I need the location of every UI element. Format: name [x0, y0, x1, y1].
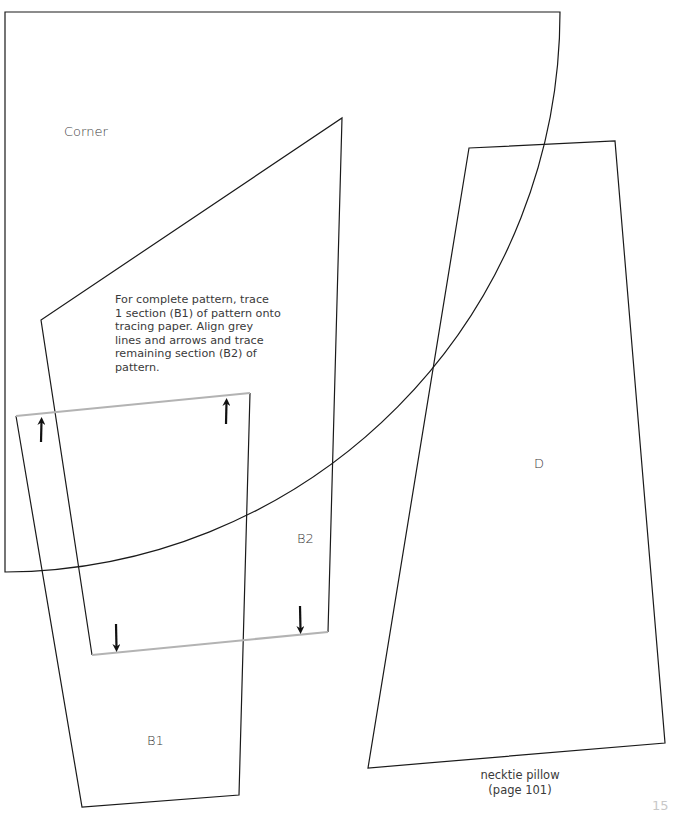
- instruction-line: For complete pattern, trace: [115, 293, 305, 307]
- alignment-line-top: [16, 393, 250, 416]
- corner-label: Corner: [64, 124, 108, 139]
- tracing-instructions: For complete pattern, trace 1 section (B…: [115, 293, 305, 375]
- instruction-line: remaining section (B2) of: [115, 347, 305, 361]
- instruction-line: lines and arrows and trace: [115, 334, 305, 348]
- instruction-line: 1 section (B1) of pattern onto: [115, 307, 305, 321]
- b2-piece-outline: [41, 118, 342, 655]
- caption-title: necktie pillow: [470, 768, 570, 783]
- alignment-line-bottom: [92, 632, 328, 655]
- caption-page-ref: (page 101): [470, 783, 570, 798]
- b1-piece-outline: [16, 393, 250, 807]
- page-number: 15: [652, 798, 669, 813]
- b1-label: B1: [147, 733, 164, 748]
- instruction-line: pattern.: [115, 361, 305, 375]
- corner-piece-outline: [5, 12, 560, 572]
- arrow-down-icon: [300, 606, 301, 630]
- d-piece-outline: [368, 141, 665, 768]
- instruction-line: tracing paper. Align grey: [115, 320, 305, 334]
- d-label: D: [534, 456, 544, 471]
- b2-label: B2: [297, 531, 314, 546]
- arrow-up-icon: [226, 402, 227, 424]
- arrow-down-icon: [116, 624, 117, 648]
- arrow-up-icon: [41, 421, 42, 442]
- pattern-caption: necktie pillow (page 101): [470, 768, 570, 798]
